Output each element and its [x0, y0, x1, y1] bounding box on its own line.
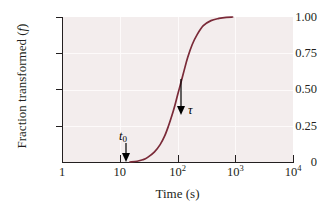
t0-annotation-label: t0 [119, 130, 127, 143]
tau-symbol: τ [188, 103, 192, 117]
t0-annotation-arrow [122, 143, 130, 162]
tau-annotation-label: τ [188, 104, 192, 117]
t0-subscript: 0 [122, 134, 127, 144]
tau-annotation-arrow [177, 79, 185, 115]
chart-plot-svg [0, 0, 317, 205]
chart-figure: 1.00 0.75 0.50 0.25 0 1 10 102 103 104 T… [0, 0, 317, 205]
